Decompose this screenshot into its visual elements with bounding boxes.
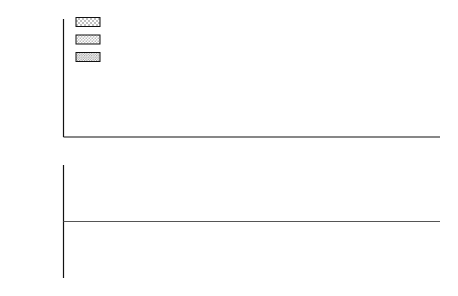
figure-water-use-and-flooding [0, 0, 458, 296]
top-chart-legend [76, 18, 100, 62]
figure-svg [0, 0, 458, 296]
legend-swatch-surface-drainage [76, 18, 100, 27]
top-chart [64, 18, 441, 138]
legend-swatch-evapotranspiration [76, 53, 100, 62]
legend-swatch-seepage-and-percolation [76, 35, 100, 44]
bottom-chart [0, 0, 440, 278]
